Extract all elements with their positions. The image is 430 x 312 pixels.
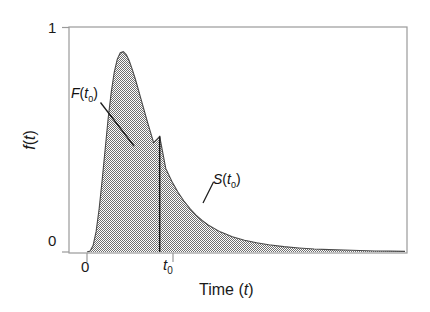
y-axis-tick-label-1: 1 [48,19,56,36]
x-axis-title-prefix: Time ( [199,281,244,298]
survivor-annotation-label: S(t0) [213,171,241,190]
x-axis-title-suffix: ) [248,281,253,298]
x-axis-tick-label-t0: t0 [163,256,173,276]
y-axis-title-fn: f [21,145,38,149]
figure-container: 1 0 0 t0 Time (t) f(t) F(t0) S(t0) [0,0,430,312]
cdf-annotation-label: F(t0) [71,85,98,104]
x-tick-t0-sub: 0 [167,265,173,276]
surv-label-close: ) [236,171,241,187]
x-axis-tick-label-0: 0 [81,258,89,275]
chart-canvas [0,0,430,312]
cdf-label-base: F [71,85,80,101]
x-axis-title: Time (t) [199,281,254,299]
cdf-label-close: ) [93,85,98,101]
surv-label-base: S [213,171,222,187]
y-axis-tick-label-0: 0 [48,232,56,249]
survivor-leader-line [203,182,214,203]
y-axis-title-var: t [21,136,38,140]
density-area-fill [87,52,405,252]
y-axis-title: f(t) [21,118,39,162]
